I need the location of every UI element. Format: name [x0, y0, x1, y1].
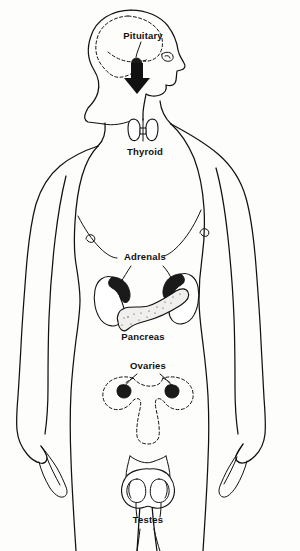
abdominal-organs-group [94, 266, 199, 331]
thyroid-right-lobe [146, 119, 158, 141]
adrenals-leader-line-right [163, 266, 172, 280]
label-pancreas: Pancreas [121, 331, 164, 342]
thyroid-group [128, 119, 158, 141]
left-breast-outline [78, 216, 117, 258]
pituitary-pointer-arrow [124, 63, 150, 94]
head-group [85, 10, 185, 125]
label-ovaries: Ovaries [130, 360, 166, 371]
right-arm-inner [216, 168, 238, 434]
label-testes: Testes [133, 514, 163, 525]
right-ovary [165, 385, 179, 398]
ear-inner-line [165, 56, 170, 58]
vas-deferens-arch [130, 456, 166, 463]
ovaries-group [103, 374, 193, 444]
left-ovary [117, 385, 131, 398]
adrenals-leader-line-left [121, 266, 131, 282]
label-adrenals: Adrenals [124, 251, 166, 262]
left-torso-outline [70, 146, 98, 551]
right-breast-outline [164, 210, 201, 256]
ear-icon [162, 52, 173, 61]
endocrine-system-diagram: Pituitary Thyroid Adrenals Pancreas Ovar… [0, 0, 300, 551]
brain-lower-fold [108, 52, 148, 62]
left-shoulder-arm-outer [17, 146, 98, 463]
uterus-outline [103, 377, 193, 444]
head-profile-outline [85, 10, 131, 124]
left-arm-inner [45, 176, 66, 434]
testes-group [122, 456, 175, 551]
neck-left-outline [98, 123, 105, 146]
inner-thigh-right [152, 505, 157, 551]
scrotum-outline [122, 469, 175, 508]
right-hand-inner-line [224, 457, 237, 484]
pituitary-leader-line [136, 42, 141, 57]
right-hand-outline [219, 444, 247, 497]
right-torso-outline [171, 124, 209, 551]
thyroid-left-lobe [128, 119, 140, 141]
neck-right-outline [160, 101, 171, 124]
label-thyroid: Thyroid [127, 146, 163, 157]
label-pituitary: Pituitary [123, 30, 163, 41]
uterus-fundus-line [133, 378, 163, 386]
brain-outline [96, 16, 134, 77]
human-figure-illustration: Pituitary Thyroid Adrenals Pancreas Ovar… [0, 0, 300, 551]
